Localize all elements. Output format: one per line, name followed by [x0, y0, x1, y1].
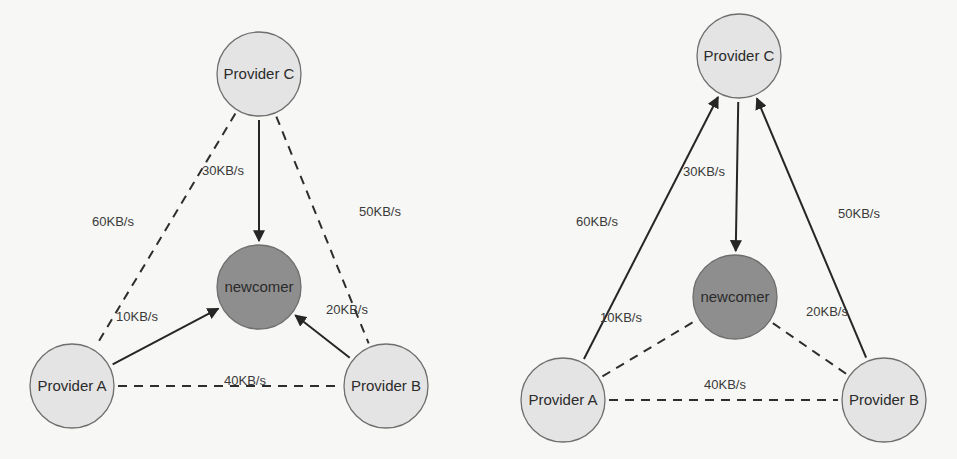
edge-label-bandwidth: 20KB/s	[326, 302, 368, 317]
edge-n-b	[773, 323, 846, 374]
edge-label-bandwidth: 50KB/s	[838, 206, 880, 221]
edge-label-bandwidth: 10KB/s	[600, 310, 642, 325]
node-newcomer: newcomer	[693, 255, 777, 339]
edge-label-bandwidth: 40KB/s	[704, 377, 746, 392]
node-label: Provider A	[528, 391, 597, 408]
node-provider-a: Provider A	[521, 358, 605, 442]
node-provider-b: Provider B	[842, 358, 926, 442]
edge-a-n	[602, 321, 695, 377]
node-label: newcomer	[700, 288, 769, 305]
node-provider-b: Provider B	[344, 344, 428, 428]
edge-label-bandwidth: 40KB/s	[224, 373, 266, 388]
edge-label-bandwidth: 10KB/s	[116, 309, 158, 324]
edge-layer	[96, 113, 369, 386]
edge-layer	[584, 97, 866, 400]
node-label: Provider B	[351, 377, 421, 394]
edge-label-bandwidth: 60KB/s	[92, 214, 134, 229]
diagram-left-before-repair: Provider CnewcomerProvider AProvider B 3…	[30, 32, 428, 428]
edge-label-bandwidth: 60KB/s	[576, 214, 618, 229]
node-label: Provider B	[849, 391, 919, 408]
edge-label-bandwidth: 20KB/s	[806, 304, 848, 319]
node-label: Provider A	[37, 377, 106, 394]
node-layer: Provider CnewcomerProvider AProvider B	[30, 32, 428, 428]
node-label: newcomer	[224, 278, 293, 295]
node-provider-c: Provider C	[217, 32, 301, 116]
node-provider-a: Provider A	[30, 344, 114, 428]
node-newcomer: newcomer	[217, 245, 301, 329]
node-provider-c: Provider C	[697, 14, 781, 98]
diagram-canvas: Provider CnewcomerProvider AProvider B 3…	[0, 0, 957, 459]
edge-label-bandwidth: 50KB/s	[359, 204, 401, 219]
node-label: Provider C	[224, 65, 295, 82]
diagram-right-after-repair: Provider CnewcomerProvider AProvider B 3…	[521, 14, 926, 442]
node-label: Provider C	[704, 47, 775, 64]
edge-b-n	[295, 315, 349, 357]
edge-c-n	[736, 102, 738, 251]
edge-label-bandwidth: 30KB/s	[683, 164, 725, 179]
edge-label-bandwidth: 30KB/s	[202, 163, 244, 178]
